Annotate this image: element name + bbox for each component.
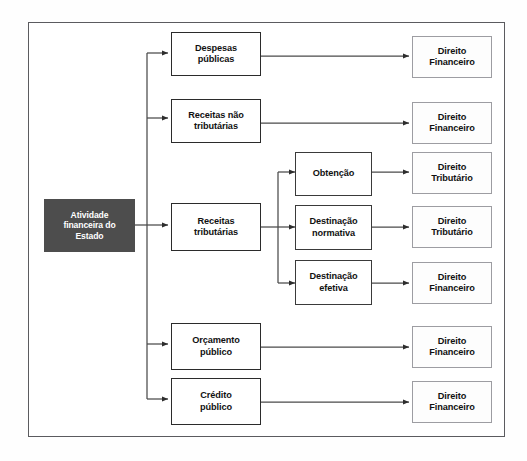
diagram-canvas: Atividade financeira do Estado Despesas … [0, 0, 527, 461]
node-destinacao-normativa[interactable]: Destinação normativa [295, 205, 372, 250]
node-outcome-label: Direito Financeiro [429, 336, 474, 358]
node-outcome-label: Direito Financeiro [429, 46, 474, 68]
node-receitas-nao-tributarias-label: Receitas não tributárias [188, 110, 243, 132]
node-receitas-nao-tributarias[interactable]: Receitas não tributárias [171, 99, 261, 143]
node-outcome-label: Direito Tributário [431, 162, 472, 184]
node-destinacao-normativa-label: Destinação normativa [309, 216, 357, 238]
node-credito-publico[interactable]: Crédito público [171, 378, 261, 425]
node-outcome-destinacao-efetiva[interactable]: Direito Financeiro [412, 262, 492, 304]
node-outcome-destinacao-normativa[interactable]: Direito Tributário [412, 206, 492, 248]
node-receitas-tributarias[interactable]: Receitas tributárias [171, 203, 261, 251]
node-outcome-despesas-publicas[interactable]: Direito Financeiro [412, 36, 492, 78]
node-outcome-label: Direito Financeiro [429, 112, 474, 134]
node-despesas-publicas-label: Despesas públicas [195, 43, 237, 65]
node-root-atividade-financeira[interactable]: Atividade financeira do Estado [44, 199, 135, 252]
node-outcome-obtencao[interactable]: Direito Tributário [412, 152, 492, 194]
node-outcome-receitas-nao-tributarias[interactable]: Direito Financeiro [412, 102, 492, 144]
node-orcamento-publico-label: Orçamento público [192, 335, 240, 357]
node-obtencao[interactable]: Obtenção [295, 152, 372, 196]
node-outcome-label: Direito Tributário [431, 216, 472, 238]
node-outcome-orcamento-publico[interactable]: Direito Financeiro [412, 326, 492, 368]
node-outcome-label: Direito Financeiro [429, 391, 474, 413]
node-obtencao-label: Obtenção [313, 168, 355, 179]
node-orcamento-publico[interactable]: Orçamento público [171, 323, 261, 370]
node-outcome-credito-publico[interactable]: Direito Financeiro [412, 381, 492, 423]
node-despesas-publicas[interactable]: Despesas públicas [171, 32, 261, 76]
node-outcome-label: Direito Financeiro [429, 272, 474, 294]
node-credito-publico-label: Crédito público [200, 390, 232, 412]
node-receitas-tributarias-label: Receitas tributárias [194, 216, 238, 238]
node-destinacao-efetiva[interactable]: Destinação efetiva [295, 260, 372, 305]
node-root-label: Atividade financeira do Estado [63, 210, 115, 241]
node-destinacao-efetiva-label: Destinação efetiva [309, 271, 357, 293]
